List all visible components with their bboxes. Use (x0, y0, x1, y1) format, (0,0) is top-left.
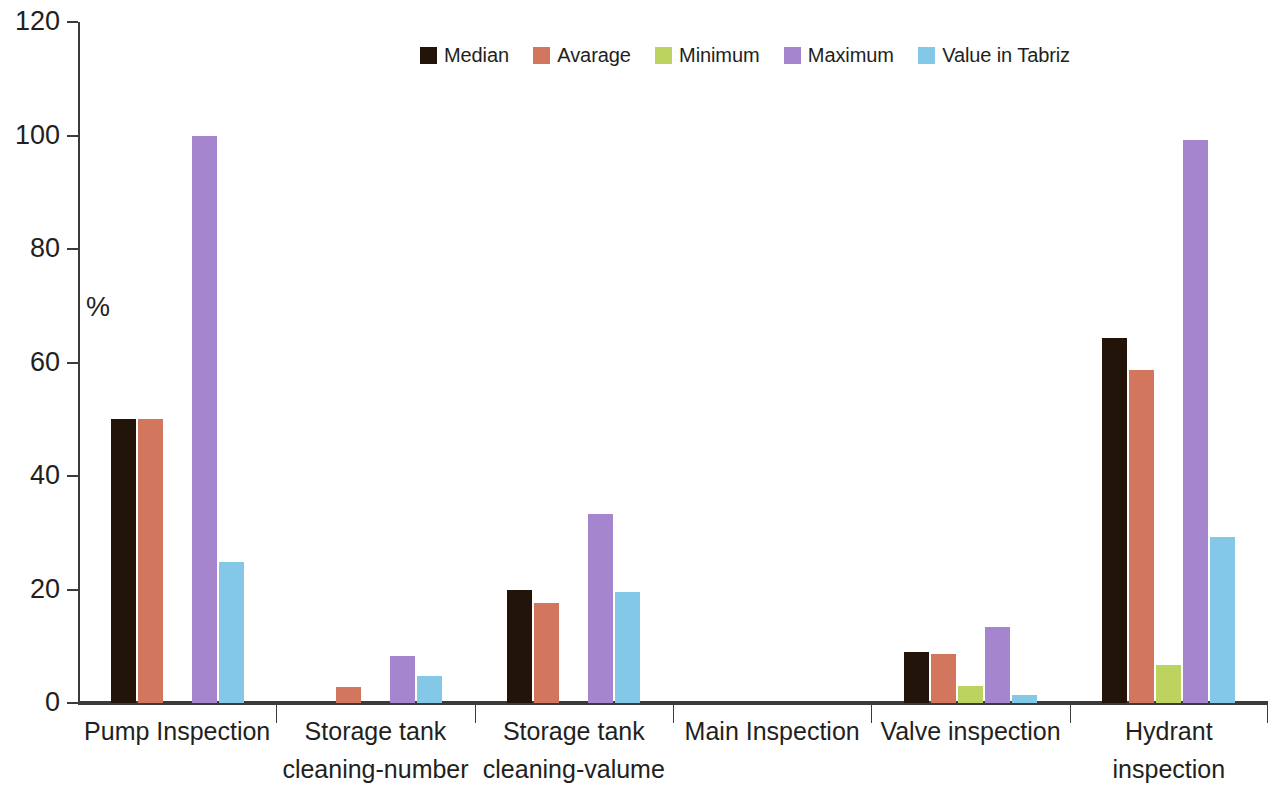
bar (534, 603, 559, 703)
y-axis-tick-label: 40 (10, 462, 60, 489)
bar (904, 652, 929, 703)
x-axis-category-label: Hydrantinspection (1052, 712, 1276, 788)
bar-chart: MedianAvarageMinimumMaximumValue in Tabr… (0, 0, 1276, 796)
bar (111, 419, 136, 703)
bar (507, 590, 532, 703)
bar (219, 562, 244, 703)
bar (588, 514, 613, 703)
y-axis-tick (67, 702, 78, 704)
y-axis-tick-label: 100 (10, 122, 60, 149)
bar (138, 419, 163, 703)
bar (1102, 338, 1127, 703)
y-axis-tick (67, 135, 78, 137)
bar (615, 592, 640, 703)
bar (336, 687, 361, 703)
bar-group (475, 22, 673, 703)
x-axis-labels: Pump InspectionStorage tankcleaning-numb… (78, 712, 1268, 796)
bar (417, 676, 442, 703)
bar (1012, 695, 1037, 703)
bar-group (78, 22, 276, 703)
bar (958, 686, 983, 703)
bar (1210, 537, 1235, 703)
bar-group (673, 22, 871, 703)
y-axis-tick-label: 60 (10, 349, 60, 376)
bar (931, 654, 956, 703)
x-axis-category-label-line: cleaning-valume (457, 750, 691, 788)
y-axis-tick (67, 475, 78, 477)
x-axis-category-label-line: Hydrant (1052, 712, 1276, 750)
bar (1156, 665, 1181, 703)
y-axis-tick (67, 21, 78, 23)
plot-area: % 020406080100120 (78, 22, 1268, 703)
bar-group (276, 22, 474, 703)
y-axis-tick (67, 248, 78, 250)
bar (985, 627, 1010, 703)
y-axis-tick-label: 80 (10, 235, 60, 262)
bar (1183, 140, 1208, 703)
x-axis-category-label-line: inspection (1052, 750, 1276, 788)
bar (1129, 370, 1154, 703)
y-axis-tick (67, 362, 78, 364)
bar (390, 656, 415, 703)
y-axis-tick (67, 589, 78, 591)
bar-group (1070, 22, 1268, 703)
bar-group (871, 22, 1069, 703)
bar (192, 136, 217, 704)
y-axis-tick-label: 20 (10, 576, 60, 603)
y-axis-tick-label: 120 (10, 8, 60, 35)
y-axis-tick-label: 0 (10, 689, 60, 716)
